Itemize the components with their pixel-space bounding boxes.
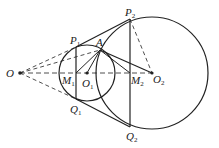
geometry-diagram: O O1 O2 P1 P2 Q1 Q2 M1 M2 A <box>0 0 219 148</box>
lower-tangent <box>76 99 130 127</box>
upper-tangent <box>76 19 130 47</box>
label-a: A <box>95 36 103 48</box>
label-q2: Q2 <box>126 130 138 144</box>
label-q1: Q1 <box>70 103 82 117</box>
label-m2: M2 <box>130 74 144 88</box>
label-o2: O2 <box>153 73 165 87</box>
label-p1: P1 <box>69 34 81 48</box>
ray-o-p1 <box>20 47 76 73</box>
label-o: O <box>6 67 14 79</box>
label-p2: P2 <box>124 6 136 20</box>
label-o1: O1 <box>82 77 94 91</box>
label-m1: M1 <box>61 74 75 88</box>
point-o1 <box>85 71 88 74</box>
point-o <box>18 71 22 75</box>
